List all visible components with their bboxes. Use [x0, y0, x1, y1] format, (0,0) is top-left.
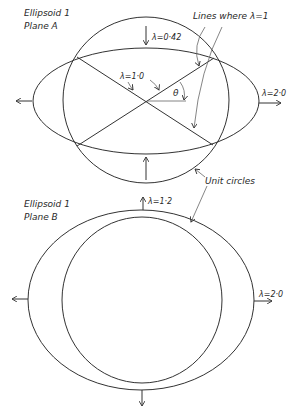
unit-circles-label: Unit circles [205, 176, 255, 186]
lambda-right-label-b: λ=2·0 [258, 290, 283, 299]
plane-b-title-1: Ellipsoid 1 [24, 199, 70, 209]
leader-arrow-icon [195, 169, 205, 177]
lambda-top-label-a: λ=0·42 [151, 33, 181, 42]
strain-ellipse-a [33, 48, 259, 154]
lambda-right-label-a: λ=2·0 [261, 89, 286, 98]
leader-arrow-icon [194, 27, 222, 128]
leader-arrow-icon [197, 27, 205, 66]
lambda-top-label-b: λ=1·2 [147, 197, 172, 206]
plane-b-group: Ellipsoid 1 Plane B λ=1·2 λ=2·0 Unit cir… [12, 169, 283, 406]
unit-circle-b [62, 217, 222, 383]
theta-label: θ [173, 88, 179, 98]
leader-arrow-icon [128, 82, 133, 90]
leader-arrow-icon [150, 80, 159, 90]
plane-b-title-2: Plane B [24, 212, 58, 222]
theta-arc-icon [180, 82, 185, 100]
lambda-diag-label: λ=1·0 [119, 72, 144, 81]
plane-a-group: Ellipsoid 1 Plane A λ=0·42 λ=2·0 λ=1·0 θ… [16, 8, 286, 183]
plane-a-title-1: Ellipsoid 1 [24, 8, 70, 18]
lines-label: Lines where λ=1 [193, 11, 269, 21]
plane-a-title-2: Plane A [24, 21, 58, 31]
leader-arrow-icon [191, 186, 207, 222]
lambda-one-line-1 [77, 57, 213, 145]
strain-ellipse-diagram: Ellipsoid 1 Plane A λ=0·42 λ=2·0 λ=1·0 θ… [0, 0, 297, 415]
